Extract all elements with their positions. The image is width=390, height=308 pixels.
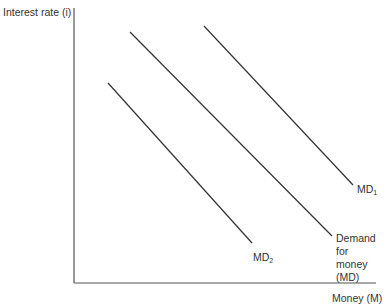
md2-line [108,83,252,243]
md-line [130,32,332,236]
y-axis-label: Interest rate (i) [3,6,71,19]
md-label: Demand for money (MD) [336,232,390,284]
md1-line [204,26,353,185]
md2-label: MD2 [253,251,273,267]
x-axis-label: Money (M) [332,292,382,305]
md1-label: MD1 [357,183,377,199]
chart-canvas [0,0,390,308]
